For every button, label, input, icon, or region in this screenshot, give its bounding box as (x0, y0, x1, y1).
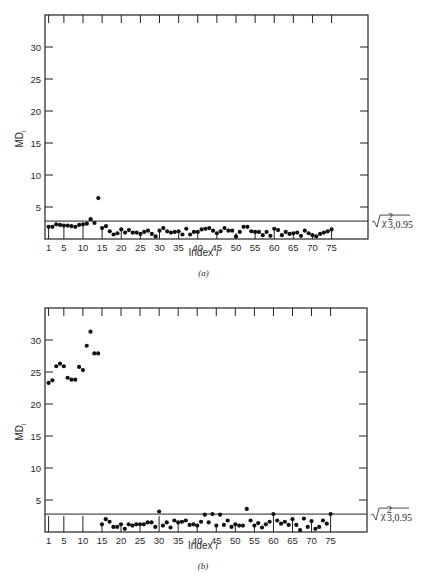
data-point (252, 524, 256, 528)
x-tick-label: 35 (173, 535, 184, 546)
x-tick-label: 20 (116, 242, 127, 253)
data-point (276, 228, 280, 232)
data-point (134, 231, 138, 235)
data-point (153, 525, 157, 529)
data-point (62, 223, 66, 227)
data-point (119, 227, 123, 231)
data-point (54, 222, 58, 226)
data-point (146, 229, 150, 233)
data-point (115, 231, 119, 235)
y-tick-label: 25 (30, 367, 41, 378)
data-point (272, 227, 276, 231)
data-point (188, 232, 192, 236)
data-point (294, 523, 298, 527)
data-point (127, 228, 131, 232)
data-point (127, 522, 131, 526)
x-tick-label: 5 (61, 242, 66, 253)
data-point (317, 525, 321, 529)
data-point (123, 527, 127, 531)
x-tick-label: 1 (46, 535, 51, 546)
data-point (47, 225, 51, 229)
data-point (66, 223, 70, 227)
data-point (191, 522, 195, 526)
data-point (295, 231, 299, 235)
plot-frame (45, 308, 367, 532)
data-point (100, 522, 104, 526)
data-point (195, 524, 199, 528)
x-tick-label: 55 (249, 535, 260, 546)
data-point (73, 378, 77, 382)
data-point (271, 512, 275, 516)
x-tick-label: 15 (97, 535, 108, 546)
y-tick-label: 5 (36, 495, 41, 506)
data-point (234, 234, 238, 238)
data-point (303, 229, 307, 233)
data-point (73, 225, 77, 229)
data-point (199, 227, 203, 231)
data-point (233, 522, 237, 526)
x-tick-label: 25 (135, 535, 146, 546)
x-tick-label: 55 (250, 242, 261, 253)
data-point (249, 229, 253, 233)
data-point (203, 227, 207, 231)
x-tick-label: 65 (288, 242, 299, 253)
data-point (69, 378, 73, 382)
plot-frame (45, 15, 368, 239)
data-point (123, 231, 127, 235)
data-point (184, 518, 188, 522)
data-point (96, 351, 100, 355)
y-tick-label: 15 (30, 431, 41, 442)
x-tick-label: 60 (269, 242, 280, 253)
data-point (237, 524, 241, 528)
y-tick-label: 15 (30, 138, 41, 149)
data-point (96, 196, 100, 200)
svg-text:χ: χ (380, 510, 386, 521)
data-point (85, 222, 89, 226)
figure: 1510152025303540455055606570755101520253… (0, 0, 422, 577)
data-point (92, 351, 96, 355)
data-point (310, 233, 314, 237)
data-point (210, 512, 214, 516)
x-axis-title: Index i (188, 247, 218, 258)
x-axis-title: Index i (188, 540, 218, 551)
data-point (238, 230, 242, 234)
x-tick-label: 20 (116, 535, 127, 546)
data-point (104, 517, 108, 521)
x-tick-label: 60 (268, 535, 279, 546)
data-point (108, 229, 112, 233)
data-point (214, 524, 218, 528)
x-tick-label: 70 (306, 535, 317, 546)
data-point (176, 520, 180, 524)
y-tick-label: 20 (30, 106, 41, 117)
x-tick-label: 10 (78, 242, 89, 253)
x-tick-label: 50 (231, 242, 242, 253)
data-point (218, 513, 222, 517)
data-point (77, 365, 81, 369)
x-tick-label: 70 (307, 242, 318, 253)
data-point (299, 234, 303, 238)
data-point (302, 516, 306, 520)
data-point (215, 231, 219, 235)
x-tick-label: 25 (135, 242, 146, 253)
data-point (104, 224, 108, 228)
data-point (307, 231, 311, 235)
data-point (196, 230, 200, 234)
data-point (219, 229, 223, 233)
data-point (280, 233, 284, 237)
data-point (230, 229, 234, 233)
data-point (264, 230, 268, 234)
data-point (248, 518, 252, 522)
data-point (58, 362, 62, 366)
data-point (161, 524, 165, 528)
data-point (50, 225, 54, 229)
data-point (241, 524, 245, 528)
data-point (130, 524, 134, 528)
data-point (199, 520, 203, 524)
data-point (245, 225, 249, 229)
data-point (172, 518, 176, 522)
y-tick-label: 10 (30, 463, 41, 474)
y-axis-title: MDi (14, 423, 27, 441)
data-point (207, 226, 211, 230)
data-point (131, 231, 135, 235)
data-point (89, 217, 93, 221)
